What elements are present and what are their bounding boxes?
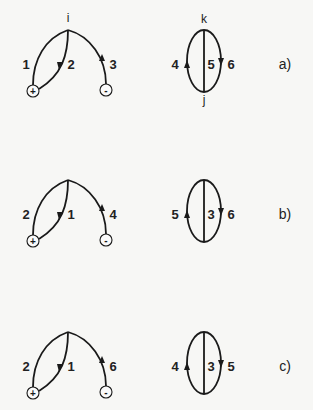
edge-label: 6 xyxy=(109,359,116,374)
edge-label: 2 xyxy=(67,57,74,72)
edge-label: 2 xyxy=(22,207,29,222)
tree-graph-c: + - 2 1 6 xyxy=(22,332,116,399)
graph-figure: + - i 1 2 3 k j 4 5 6 a) + - xyxy=(0,0,313,410)
edge-label: 6 xyxy=(227,57,234,72)
edge-label: 4 xyxy=(171,57,179,72)
loop-graph-b: 5 3 6 xyxy=(171,180,234,242)
node-label-i: i xyxy=(67,11,70,25)
arrow-up-icon xyxy=(184,60,190,68)
tree-graph-a: + - i 1 2 3 xyxy=(22,11,116,97)
arrow-down-icon xyxy=(218,208,224,216)
loop-graph-a: k j 4 5 6 xyxy=(171,12,234,107)
panel-a: + - i 1 2 3 k j 4 5 6 a) xyxy=(22,11,291,107)
panel-b: + - 2 1 4 5 3 6 b) xyxy=(22,180,291,247)
edge-label: 3 xyxy=(109,57,116,72)
svg-text:-: - xyxy=(104,235,107,246)
loop-graph-c: 4 3 5 xyxy=(171,332,234,394)
svg-text:-: - xyxy=(104,85,107,96)
svg-text:+: + xyxy=(30,236,36,247)
svg-text:-: - xyxy=(104,387,107,398)
arrow-up-icon xyxy=(184,362,190,370)
node-label-k: k xyxy=(201,12,208,26)
edge-label: 1 xyxy=(67,359,74,374)
panel-label: c) xyxy=(279,358,291,374)
node-label-j: j xyxy=(202,93,206,107)
edge-label: 5 xyxy=(171,207,178,222)
arrow-up-icon xyxy=(184,210,190,218)
edge-label: 5 xyxy=(227,359,234,374)
edge-label: 6 xyxy=(227,207,234,222)
edge-label: 1 xyxy=(22,57,29,72)
panel-c: + - 2 1 6 4 3 5 c) xyxy=(22,332,290,399)
edge-label: 5 xyxy=(207,57,214,72)
panel-label: a) xyxy=(279,56,291,72)
edge-label: 2 xyxy=(22,359,29,374)
panel-label: b) xyxy=(279,206,291,222)
arrow-down-icon xyxy=(218,58,224,66)
edge-label: 4 xyxy=(171,359,179,374)
svg-text:+: + xyxy=(30,86,36,97)
edge-label: 4 xyxy=(109,207,117,222)
arrow-down-icon xyxy=(218,360,224,368)
edge-label: 3 xyxy=(207,207,214,222)
tree-graph-b: + - 2 1 4 xyxy=(22,180,117,247)
svg-text:+: + xyxy=(30,388,36,399)
edge-label: 1 xyxy=(67,207,74,222)
edge-label: 3 xyxy=(207,359,214,374)
